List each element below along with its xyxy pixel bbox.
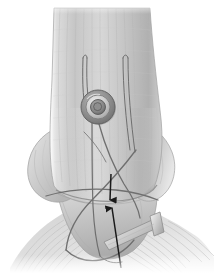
top-fade xyxy=(0,0,214,14)
bottom-fade xyxy=(0,255,214,273)
illustration-canvas xyxy=(0,0,214,273)
anatomical-figure: Syndesmotic suture-button fixation of th… xyxy=(0,0,214,273)
washer-bore xyxy=(94,103,102,111)
washer-implant xyxy=(81,90,116,125)
arrow-down xyxy=(110,174,111,200)
